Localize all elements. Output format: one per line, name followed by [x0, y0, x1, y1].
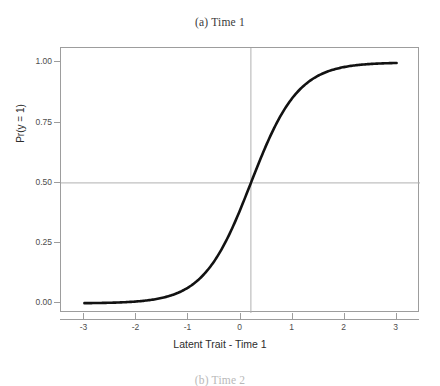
x-tick-mark: [344, 313, 345, 319]
x-tick-mark: [240, 313, 241, 319]
x-tick-label: -1: [167, 322, 207, 332]
x-tick-mark: [135, 313, 136, 319]
plot-svg: [61, 48, 420, 313]
y-tick-mark: [54, 302, 60, 303]
x-axis-line: [60, 319, 419, 320]
y-tick-mark: [54, 182, 60, 183]
x-axis-title: Latent Trait - Time 1: [0, 338, 440, 350]
y-axis-title: Pr(y = 1): [15, 74, 26, 174]
x-tick-label: 3: [376, 322, 416, 332]
x-tick-label: 1: [272, 322, 312, 332]
x-tick-mark: [396, 313, 397, 319]
figure-caption-bottom: (b) Time 2: [0, 374, 440, 386]
y-tick-label: 0.50: [18, 177, 52, 187]
y-tick-mark: [54, 242, 60, 243]
x-tick-label: 0: [220, 322, 260, 332]
y-tick-label: 1.00: [18, 56, 52, 66]
x-tick-label: 2: [324, 322, 364, 332]
y-tick-mark: [54, 61, 60, 62]
y-tick-label: 0.00: [18, 297, 52, 307]
plot-panel: [60, 47, 419, 312]
y-tick-label: 0.25: [18, 237, 52, 247]
y-tick-mark: [54, 122, 60, 123]
figure-caption-top: (a) Time 1: [0, 16, 440, 28]
figure-container: (a) Time 1 1.000.750.500.250.00 Pr(y = 1…: [0, 0, 440, 386]
x-tick-mark: [83, 313, 84, 319]
x-tick-mark: [187, 313, 188, 319]
x-tick-label: -2: [115, 322, 155, 332]
x-tick-label: -3: [63, 322, 103, 332]
x-tick-mark: [292, 313, 293, 319]
